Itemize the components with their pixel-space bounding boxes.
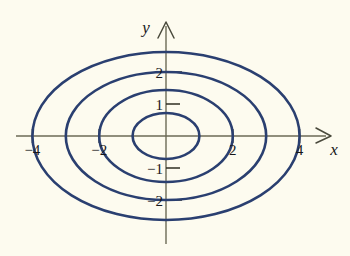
y-tick-label-2: 2	[156, 65, 164, 81]
y-tick-label-1: 1	[156, 97, 164, 113]
figure-canvas: −4 −2 2 4 2 1 −1 −2 y x	[0, 0, 350, 256]
level-curve-plot: −4 −2 2 4 2 1 −1 −2 y x	[0, 0, 350, 256]
y-axis-label: y	[140, 18, 150, 37]
x-tick-label-2: 2	[229, 142, 237, 158]
x-tick-label-4: 4	[296, 142, 304, 158]
x-tick-label--2: −2	[91, 142, 107, 158]
x-axis-label: x	[329, 140, 338, 159]
y-tick-label--1: −1	[147, 161, 163, 177]
x-tick-label--4: −4	[24, 142, 40, 158]
y-tick-label--2: −2	[147, 193, 163, 209]
